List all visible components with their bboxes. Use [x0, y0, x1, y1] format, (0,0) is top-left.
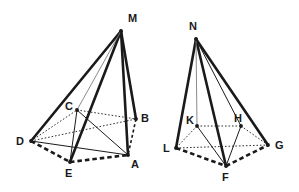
edge-NG: [196, 39, 268, 145]
edges-layer: [31, 31, 268, 166]
vertex-dot-N: [194, 37, 198, 41]
edge-NK: [196, 39, 197, 126]
right-pyramid-edges: [176, 39, 268, 166]
vertex-dot-E: [68, 160, 72, 164]
vertex-dot-K: [195, 124, 199, 128]
vertex-label-M: M: [128, 12, 137, 24]
diagram-canvas: MCBDAENKHLGF: [0, 0, 299, 192]
vertex-label-F: F: [222, 171, 229, 183]
vertex-dot-G: [266, 143, 270, 147]
vertex-label-K: K: [186, 114, 194, 126]
vertex-label-A: A: [131, 158, 139, 170]
vertex-label-L: L: [163, 142, 170, 154]
edge-MC: [77, 31, 121, 110]
geometry-diagram: MCBDAENKHLGF: [0, 0, 299, 192]
edge-EA: [70, 155, 128, 162]
edge-HF: [226, 126, 241, 166]
vertex-label-D: D: [16, 135, 24, 147]
vertex-label-B: B: [141, 112, 149, 124]
vertex-dot-H: [239, 124, 243, 128]
vertex-label-G: G: [275, 139, 284, 151]
left-pyramid-edges: [31, 31, 136, 162]
vertex-label-N: N: [189, 20, 197, 32]
edge-HG: [241, 126, 268, 145]
vertex-label-H: H: [234, 112, 242, 124]
vertex-dot-C: [75, 108, 79, 112]
vertex-label-C: C: [65, 100, 73, 112]
edge-BA: [128, 119, 136, 155]
edge-NL: [176, 39, 196, 148]
vertex-dot-A: [126, 153, 130, 157]
edge-MD: [31, 31, 121, 141]
vertex-dot-B: [134, 117, 138, 121]
vertex-dot-M: [119, 29, 123, 33]
vertex-dot-D: [29, 139, 33, 143]
vertex-dot-F: [224, 164, 228, 168]
vertex-label-E: E: [65, 167, 72, 179]
edge-LF: [176, 148, 226, 166]
vertex-dot-L: [174, 146, 178, 150]
